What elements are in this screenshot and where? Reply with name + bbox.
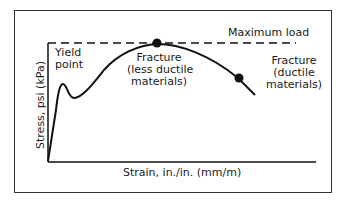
- fracture-ductile-label: Fracture (ductile materials): [262, 55, 326, 91]
- yield-point-label: Yield point: [55, 47, 83, 71]
- fracture-less-ductile-label: Fracture (less ductile materials): [127, 52, 191, 88]
- fracture-less-line3: materials): [127, 76, 191, 88]
- x-axis-label: Strain, in./in. (mm/m): [123, 167, 241, 179]
- fracture-ductile-point: [235, 74, 244, 83]
- y-axis-label: Stress, psi (kPa): [34, 61, 47, 149]
- maximum-load-label: Maximum load: [228, 27, 309, 39]
- fracture-ductile-line3: materials): [262, 79, 326, 91]
- fracture-less-ductile-point: [153, 39, 162, 48]
- yield-label-line2: point: [55, 59, 83, 71]
